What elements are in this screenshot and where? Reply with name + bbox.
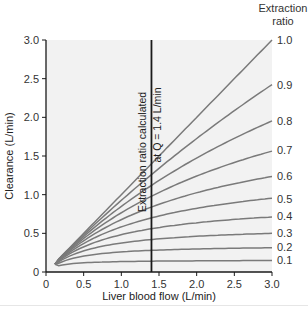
extraction-ratio-label: 0.7 xyxy=(277,144,292,156)
extraction-ratio-label: 0.1 xyxy=(277,254,292,266)
y-tick-label: 0 xyxy=(33,266,39,278)
x-axis: 00.51.01.52.02.53.0 xyxy=(43,272,280,290)
x-tick-label: 2.0 xyxy=(189,278,204,290)
y-tick-label: 2.0 xyxy=(24,111,39,123)
extraction-ratio-label: 0.9 xyxy=(277,79,292,91)
annotation-right: at Q̇ = 1.4 L/min xyxy=(151,87,163,162)
legend-title-line2: ratio xyxy=(272,15,293,27)
annotation-left: Extraction ratio calculated xyxy=(136,92,148,212)
y-axis-title: Clearance (L/min) xyxy=(3,112,15,199)
legend-title-line1: Extraction xyxy=(259,2,308,14)
extraction-ratio-label: 0.4 xyxy=(277,210,292,222)
x-tick-label: 0.5 xyxy=(76,278,91,290)
extraction-ratio-label: 0.3 xyxy=(277,227,292,239)
y-tick-label: 1.0 xyxy=(24,189,39,201)
y-tick-label: 3.0 xyxy=(24,34,39,46)
x-tick-label: 3.0 xyxy=(264,278,279,290)
extraction-ratio-label: 0.6 xyxy=(277,170,292,182)
y-tick-label: 0.5 xyxy=(24,227,39,239)
extraction-ratio-label: 0.5 xyxy=(277,193,292,205)
x-tick-label: 1.5 xyxy=(151,278,166,290)
y-axis: 00.51.01.52.02.53.0 xyxy=(24,34,46,278)
x-axis-title: Liver blood flow (L/min) xyxy=(102,290,216,302)
extraction-ratio-label: 0.2 xyxy=(277,241,292,253)
x-tick-label: 2.5 xyxy=(227,278,242,290)
clearance-vs-flow-chart: 00.51.01.52.02.53.0 00.51.01.52.02.53.0 … xyxy=(0,0,308,311)
extraction-ratio-label: 0.8 xyxy=(277,115,292,127)
y-tick-label: 2.5 xyxy=(24,73,39,85)
bottom-divider xyxy=(0,305,308,306)
x-tick-label: 1.0 xyxy=(114,278,129,290)
extraction-ratio-label: 1.0 xyxy=(277,34,292,46)
extraction-ratio-labels: 1.00.90.80.70.60.50.40.30.20.1 xyxy=(277,34,292,266)
x-tick-label: 0 xyxy=(43,278,49,290)
y-tick-label: 1.5 xyxy=(24,150,39,162)
